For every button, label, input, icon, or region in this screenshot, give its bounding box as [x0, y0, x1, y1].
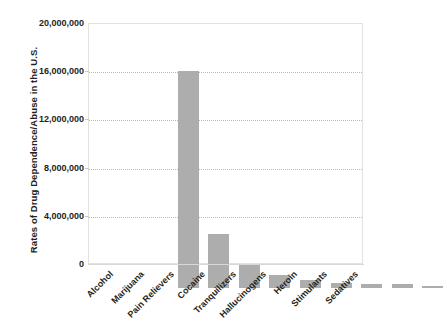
y-tick-mark [85, 119, 89, 120]
y-tick-label: 16,000,000 [2, 66, 84, 76]
y-tick-mark [85, 71, 89, 72]
bar-alcohol [178, 71, 199, 288]
plot-area [88, 23, 363, 264]
x-tick-label-heroin: Heroin [271, 269, 298, 296]
y-tick-mark [85, 168, 89, 169]
bar-stimulants [392, 284, 413, 288]
x-axis-tick-labels: AlcoholMarijuanaPain RelieversCocaineTra… [0, 264, 390, 334]
bars-layer [177, 47, 447, 288]
bar-sedatives [422, 286, 443, 288]
y-tick-label: 12,000,000 [2, 114, 84, 124]
x-tick-label-sedatives: Sedatives [323, 269, 360, 306]
y-tick-label: 8,000,000 [2, 163, 84, 173]
y-tick-label: 4,000,000 [2, 211, 84, 221]
x-tick-label-alcohol: Alcohol [85, 269, 115, 299]
y-tick-label: 20,000,000 [2, 18, 84, 28]
y-tick-mark [85, 216, 89, 217]
